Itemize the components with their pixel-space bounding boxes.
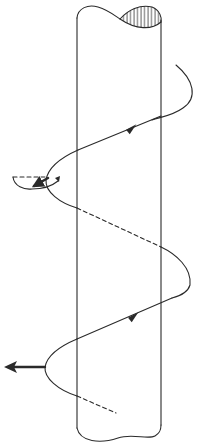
- cylinder-body: [77, 18, 161, 441]
- radial-arrow-lower: [4, 361, 45, 373]
- diagram: [0, 0, 197, 445]
- hatched-cross-section: [77, 6, 161, 28]
- rotation-arrow-upper: [13, 176, 60, 189]
- helical-path: [45, 65, 192, 413]
- helix-cylinder-figure: [0, 0, 197, 445]
- direction-arrow-lower: [127, 312, 139, 322]
